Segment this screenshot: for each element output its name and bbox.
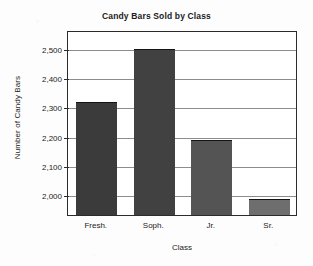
tick-mark	[64, 108, 69, 109]
tick-mark	[64, 79, 69, 80]
gridline	[68, 50, 296, 51]
chart-title: Candy Bars Sold by Class	[0, 11, 313, 21]
tick-mark	[64, 167, 69, 168]
tick-mark	[64, 50, 69, 51]
x-axis-tick-label: Sr.	[240, 221, 298, 230]
x-axis-tick-label: Fresh.	[67, 221, 125, 230]
x-axis-tick-label: Jr.	[182, 221, 240, 230]
chart-figure: Candy Bars Sold by Class Number of Candy…	[0, 0, 313, 266]
x-axis-tick-label: Soph.	[125, 221, 183, 230]
bar	[134, 49, 175, 215]
plot-area: 2,0002,1002,2002,3002,4002,500	[67, 31, 297, 216]
bar	[191, 140, 232, 215]
y-axis-tick-label: 2,400	[42, 74, 62, 83]
bar	[249, 199, 290, 215]
y-axis-tick-label: 2,100	[42, 163, 62, 172]
gridline	[68, 79, 296, 80]
y-axis-tick-label: 2,500	[42, 45, 62, 54]
bar	[76, 102, 117, 215]
tick-mark	[64, 196, 69, 197]
tick-mark	[64, 138, 69, 139]
y-axis-label: Number of Candy Bars	[13, 38, 22, 198]
y-axis-tick-label: 2,000	[42, 192, 62, 201]
y-axis-tick-label: 2,200	[42, 133, 62, 142]
y-axis-tick-label: 2,300	[42, 104, 62, 113]
x-axis-label: Class	[67, 243, 297, 252]
